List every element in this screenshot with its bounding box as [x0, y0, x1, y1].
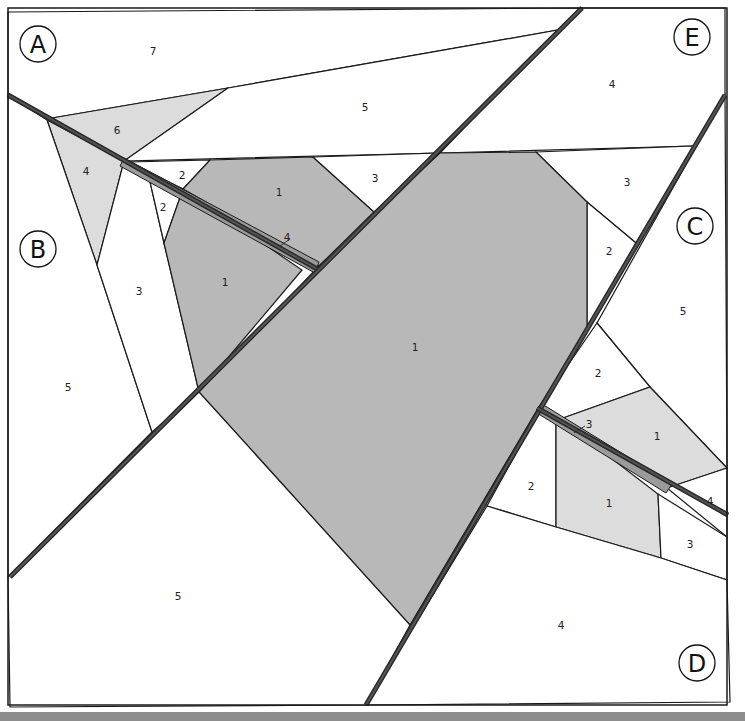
piece-number: 3 — [372, 172, 379, 184]
piece-number: 4 — [558, 619, 565, 631]
section-marker-e: E — [674, 19, 710, 55]
pieces-layer — [8, 8, 730, 707]
strip-number: 4 — [284, 231, 291, 243]
piece-number: 4 — [609, 78, 616, 90]
paper-piecing-diagram: 76545322113432152142134543 ABCDE — [0, 0, 745, 721]
piece-number: 3 — [624, 176, 631, 188]
section-letter: D — [688, 650, 706, 678]
piece-number: 2 — [528, 480, 535, 492]
piece-number: 2 — [606, 245, 613, 257]
piece-number: 3 — [136, 285, 143, 297]
piece-number: 2 — [595, 367, 602, 379]
piece-number: 5 — [65, 381, 72, 393]
piece-number: 4 — [707, 495, 714, 507]
section-marker-c: C — [677, 208, 713, 244]
piece-number: 4 — [83, 165, 90, 177]
section-marker-d: D — [679, 645, 715, 681]
piece-number: 1 — [606, 497, 613, 509]
bottom-bar — [0, 712, 745, 721]
piece-number: 1 — [222, 276, 229, 288]
piece-number: 3 — [687, 538, 694, 550]
section-letter: B — [30, 236, 46, 264]
section-marker-a: A — [20, 26, 56, 62]
piece-number: 1 — [412, 341, 419, 353]
strip-number: 3 — [586, 418, 593, 430]
piece-number: 5 — [175, 590, 182, 602]
piece-number: 5 — [362, 101, 369, 113]
section-letter: C — [687, 213, 704, 241]
piece-number: 2 — [160, 201, 167, 213]
piece-number: 1 — [654, 430, 661, 442]
section-letter: E — [684, 24, 699, 52]
piece-number: 6 — [114, 124, 121, 136]
piece-number: 1 — [276, 186, 283, 198]
section-marker-b: B — [20, 231, 56, 267]
piece-number: 2 — [179, 169, 186, 181]
piece-number: 5 — [680, 305, 687, 317]
section-letter: A — [30, 31, 47, 59]
piece-number: 7 — [150, 45, 157, 57]
